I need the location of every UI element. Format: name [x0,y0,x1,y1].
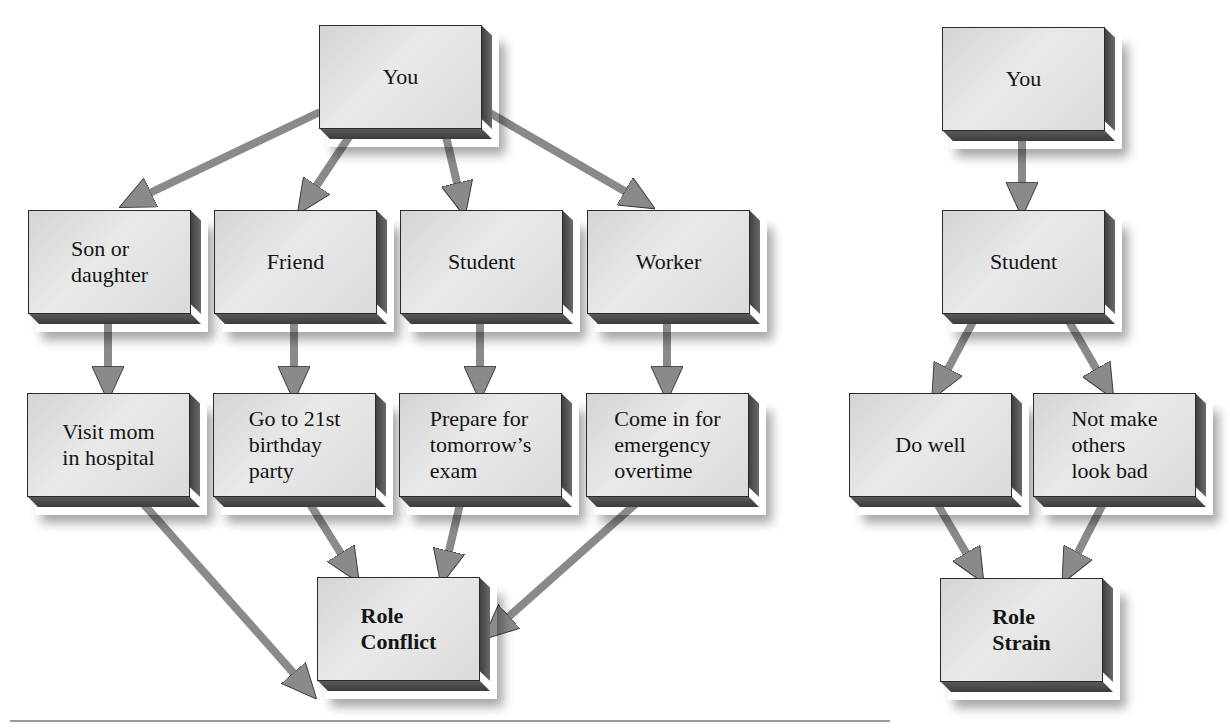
box-label: You [383,64,419,90]
box-demand-overtime: Come in for emergency overtime [586,393,749,497]
box-label: Role Strain [992,604,1051,656]
box-role-worker: Worker [587,210,750,314]
box-label: Not make others look bad [1071,406,1157,484]
box-you-conflict: You [319,25,482,129]
box-label: Student [990,249,1057,275]
box-role-son-or-daughter: Son or daughter [28,210,191,314]
arrow-you-to-son [135,112,320,200]
box-label: You [1006,66,1042,92]
box-label: Do well [895,432,965,458]
arrow-you-to-worker [488,112,640,200]
box-you-strain: You [942,27,1105,131]
box-label: Friend [267,249,324,275]
box-role-conflict: Role Conflict [317,577,480,681]
box-label: Role Conflict [361,603,437,655]
box-label: Come in for emergency overtime [614,406,720,484]
box-role-student: Student [400,210,563,314]
box-role-friend: Friend [214,210,377,314]
box-demand-do-well: Do well [849,393,1012,497]
box-demand-birthday-party: Go to 21st birthday party [213,393,376,497]
arrow-overtime-to-conflict [496,500,640,628]
box-label: Student [448,249,515,275]
box-strain-student: Student [942,210,1105,314]
box-role-strain: Role Strain [940,578,1103,682]
box-demand-visit-mom: Visit mom in hospital [27,393,190,497]
box-label: Son or daughter [71,236,148,288]
box-demand-exam: Prepare for tomorrow’s exam [399,393,562,497]
box-demand-not-make-others-look-bad: Not make others look bad [1033,393,1196,497]
arrow-visit-to-conflict [140,500,305,686]
box-label: Go to 21st birthday party [249,406,341,484]
box-label: Prepare for tomorrow’s exam [430,406,531,484]
box-label: Worker [636,249,701,275]
box-label: Visit mom in hospital [62,419,154,471]
